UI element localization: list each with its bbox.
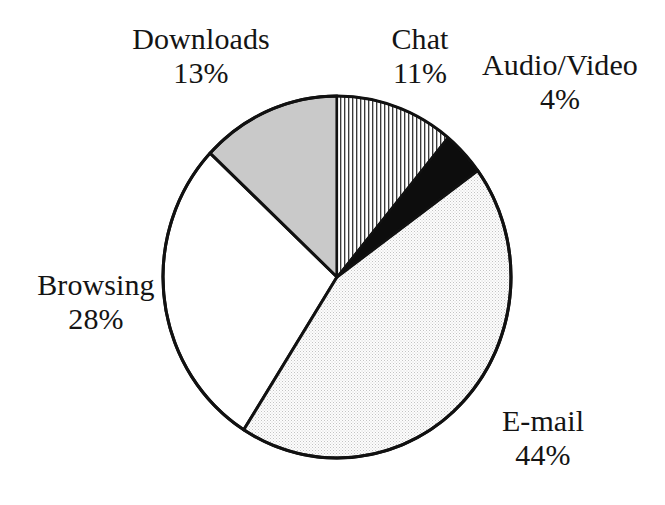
pie-label-email-name: E-mail bbox=[460, 404, 626, 438]
pie-label-chat: Chat 11% bbox=[372, 22, 468, 89]
pie-label-chat-value: 11% bbox=[372, 56, 468, 90]
pie-label-audio-video-value: 4% bbox=[462, 82, 658, 116]
pie-label-chat-name: Chat bbox=[372, 22, 468, 56]
pie-label-downloads-value: 13% bbox=[96, 56, 306, 90]
pie-label-downloads-name: Downloads bbox=[96, 22, 306, 56]
pie-label-browsing-value: 28% bbox=[8, 302, 184, 336]
pie-label-email-value: 44% bbox=[460, 438, 626, 472]
pie-label-email: E-mail 44% bbox=[460, 404, 626, 471]
pie-label-browsing: Browsing 28% bbox=[8, 268, 184, 335]
pie-label-audio-video: Audio/Video 4% bbox=[462, 48, 658, 115]
pie-label-downloads: Downloads 13% bbox=[96, 22, 306, 89]
pie-label-audio-video-name: Audio/Video bbox=[462, 48, 658, 82]
pie-label-browsing-name: Browsing bbox=[8, 268, 184, 302]
pie-chart: Downloads 13% Chat 11% Audio/Video 4% Br… bbox=[0, 0, 665, 505]
